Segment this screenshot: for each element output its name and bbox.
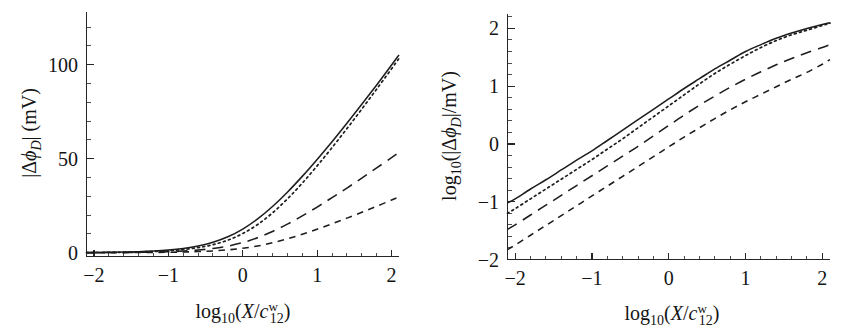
right-curve-short-dash [508,60,831,250]
right-curve-dotted [508,23,831,213]
left-curve-solid [87,55,400,253]
left-minor-ticks [87,27,392,256]
right-x-tick-labels: −2−1012 [505,267,828,289]
right-x-tick-label: −1 [581,267,602,289]
left-x-tick-label: 2 [387,264,397,286]
left-x-axis-label: log10(X/cw12) [196,299,291,326]
right-x-tick-label: 0 [664,267,674,289]
right-y-tick-label: −1 [478,191,499,213]
left-x-tick-label: 0 [238,264,248,286]
right-curve-long-dash [508,45,831,230]
right-major-ticks [508,28,823,259]
figure-container: −2−1012 050100 log10(X/cw12) |ΔϕD| (mV) … [0,0,860,335]
left-y-tick-label: 0 [68,242,78,264]
right-curve-solid [508,23,831,203]
right-y-tick-label: 2 [489,17,499,39]
right-plot-svg: −2−1012 −2−1012 log10(X/cw12) log10(|ΔϕD… [430,0,860,335]
left-major-ticks [87,65,392,257]
right-y-tick-label: 1 [489,75,499,97]
left-curve-long-dash [87,152,400,252]
right-y-tick-label: −2 [478,249,499,271]
left-y-tick-label: 50 [58,148,78,170]
right-y-tick-label: 0 [489,133,499,155]
left-x-tick-label: −2 [83,264,104,286]
right-x-axis-label: log10(X/cw12) [625,301,720,328]
left-plot-svg: −2−1012 050100 log10(X/cw12) |ΔϕD| (mV) [0,0,430,335]
right-x-tick-label: 1 [741,267,751,289]
right-minor-ticks [508,17,823,260]
left-y-axis-label: |ΔϕD| (mV) [18,88,44,178]
right-x-tick-label: 2 [817,267,827,289]
left-curves-group [87,55,400,253]
panel-right-log: −2−1012 −2−1012 log10(X/cw12) log10(|ΔϕD… [430,0,860,335]
left-y-tick-labels: 050100 [48,54,78,264]
right-curves-group [508,23,831,250]
right-y-tick-labels: −2−1012 [478,17,499,270]
left-curve-dotted [87,58,400,252]
left-x-tick-labels: −2−1012 [83,264,396,286]
panel-left-linear: −2−1012 050100 log10(X/cw12) |ΔϕD| (mV) [0,0,430,335]
left-x-tick-label: 1 [312,264,322,286]
left-y-tick-label: 100 [48,54,78,76]
left-curve-short-dash [87,197,400,253]
right-x-tick-label: −2 [505,267,526,289]
right-y-axis-label: log10(|ΔϕD|/mV) [438,71,464,201]
left-x-tick-label: −1 [158,264,179,286]
